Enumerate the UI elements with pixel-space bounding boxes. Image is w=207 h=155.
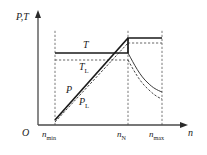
curve-label-PL: PL [79,97,89,110]
vertical-guides [55,30,162,125]
curve-label-sub: L [85,67,89,74]
curve-label-TL: TL [79,62,89,75]
axis-lines [38,16,182,125]
figure-container: P,T O n nmin nN nmax T TL P PL [0,0,207,155]
series-P-curve [55,38,128,120]
tick-sub: min [47,135,57,141]
curve-label-P: P [66,85,72,98]
curve-label-base: P [66,84,72,95]
x-tick-label-nmin: nmin [42,130,56,141]
origin-label: O [22,128,29,138]
tick-sub: max [154,135,165,141]
curve-label-base: T [83,39,89,50]
pt-vs-n-chart [0,0,207,155]
x-axis-label: n [188,128,193,138]
curve-label-sub: L [85,102,89,109]
x-tick-label-nN: nN [117,130,126,141]
x-axis-arrow [180,122,188,128]
y-axis-label: P,T [16,12,29,22]
curve-label-T: T [83,40,89,53]
series-T-curve [55,38,162,53]
tick-sub: N [122,135,126,141]
series-P-falloff [128,53,162,92]
y-axis-arrow [35,10,41,18]
series-PL-curve [55,43,162,122]
horizontal-guides [55,43,162,60]
x-tick-label-nmax: nmax [149,130,164,141]
